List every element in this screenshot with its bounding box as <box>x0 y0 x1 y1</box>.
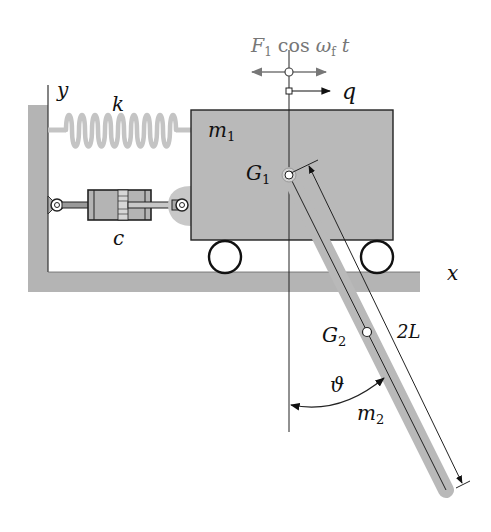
spring-label-k: k <box>112 92 124 116</box>
force-label: F1 cos ωf t <box>250 34 350 59</box>
damper <box>48 186 191 226</box>
center-G2 <box>363 328 372 337</box>
mechanical-system-diagram: F1 cos ωf t q y x k c m1 G1 G2 2L ϑ m2 <box>0 0 491 532</box>
wheel-left <box>209 241 241 273</box>
angle-label: ϑ <box>330 373 344 397</box>
damper-label-c: c <box>113 226 124 250</box>
y-axis-label: y <box>56 78 69 102</box>
spring <box>48 115 191 147</box>
q-label: q <box>342 79 356 104</box>
rod-mass-label: m2 <box>357 401 384 427</box>
force-arrows <box>252 68 326 76</box>
wheel-right <box>361 241 393 273</box>
displacement-q-arrow <box>286 88 330 94</box>
rod-length-label: 2L <box>396 321 420 342</box>
x-axis-label: x <box>447 261 458 285</box>
G2-label: G2 <box>322 323 346 349</box>
